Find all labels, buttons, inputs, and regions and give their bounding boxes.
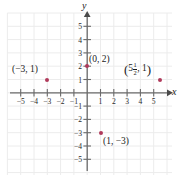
x-tick-label-4: 4 — [138, 97, 142, 106]
coordinate-plane-figure: x y −5 −4 −3 −2 −1 1 2 3 4 5 5 4 3 2 1 −… — [0, 0, 178, 184]
x-tick-label-1: 1 — [99, 97, 103, 106]
x-tick-label--4: −4 — [30, 97, 38, 106]
y-axis-label: y — [82, 0, 86, 11]
y-tick-label--3: −3 — [74, 128, 82, 137]
y-tick-label-4: 4 — [78, 35, 82, 44]
x-axis-label: x — [172, 86, 176, 97]
x-tick-label-5: 5 — [152, 97, 156, 106]
data-point-1--3 — [99, 131, 103, 135]
x-tick-label-3: 3 — [125, 97, 129, 106]
data-point-5.5-1 — [158, 78, 162, 82]
x-tick-label--3: −3 — [43, 97, 51, 106]
fraction-denominator: 2 — [133, 69, 137, 77]
data-point-0-2 — [85, 64, 89, 68]
fraction-numerator: 1 — [133, 62, 137, 69]
y-tick-label--2: −2 — [74, 115, 82, 124]
point-label-5.5-1: (512, 1) — [124, 62, 151, 76]
point-label-1--3: (1, −3) — [103, 137, 129, 147]
y-tick-label--4: −4 — [74, 142, 82, 151]
y-tick-label-1: 1 — [78, 75, 82, 84]
y-tick-label--5: −5 — [74, 155, 82, 164]
y-tick-label--1: −1 — [74, 102, 82, 111]
x-tick-label-2: 2 — [112, 97, 116, 106]
x-tick-label--2: −2 — [57, 97, 65, 106]
point-label-0-2: (0, 2) — [89, 55, 110, 65]
y-tick-label-2: 2 — [78, 62, 82, 71]
data-point--3-1 — [45, 78, 49, 82]
y-axis-arrow — [84, 11, 91, 17]
point-label--3-1: (−3, 1) — [12, 65, 38, 75]
paren-close: ) — [147, 62, 151, 77]
y-tick-label-3: 3 — [78, 48, 82, 57]
x-tick-label--5: −5 — [17, 97, 25, 106]
mixed-number-rest: , 1 — [137, 63, 147, 73]
axes — [0, 0, 178, 184]
y-tick-label-5: 5 — [78, 22, 82, 31]
fraction-one-half: 12 — [133, 62, 137, 76]
